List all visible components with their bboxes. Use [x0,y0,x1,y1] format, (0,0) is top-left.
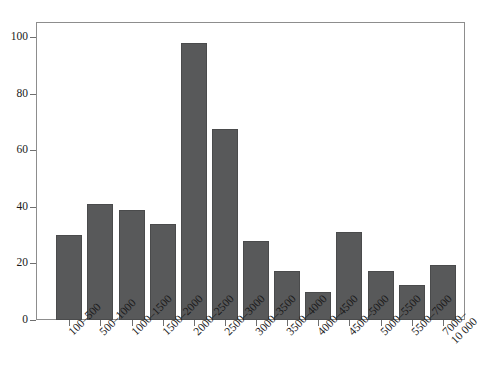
y-axis-tick-label: 60 [0,144,28,156]
y-axis-tick-label: 80 [0,88,28,100]
y-axis-tick [30,150,36,151]
y-axis-tick-label: 20 [0,257,28,269]
y-axis-tick-label: 0 [0,314,28,326]
y-axis-tick [30,320,36,321]
bar [181,43,207,320]
y-axis-tick [30,263,36,264]
bars-group [37,23,464,320]
y-axis-tick-label: 40 [0,201,28,213]
y-axis-tick [30,37,36,38]
y-axis-tick [30,207,36,208]
bar [212,129,238,320]
bar [56,235,82,320]
y-axis-tick [30,94,36,95]
y-axis-tick-label: 100 [0,31,28,43]
